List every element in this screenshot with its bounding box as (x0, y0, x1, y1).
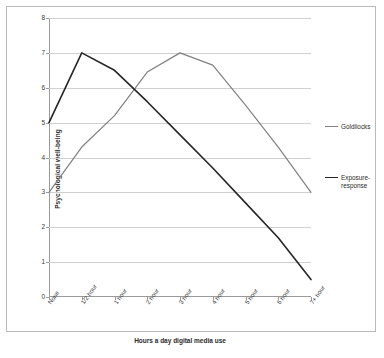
legend-label: Exposure-response (341, 174, 381, 191)
y-tick-label: 3 (41, 189, 45, 196)
legend-entry[interactable]: Exposure-response (325, 174, 381, 191)
x-axis-title: Hours a day digital media use (49, 337, 311, 344)
legend-swatch-icon (325, 177, 338, 178)
y-tick-label: 5 (41, 119, 45, 126)
y-tick-label: 0 (41, 294, 45, 301)
y-tick-label: 7 (41, 50, 45, 57)
y-tick-label: 6 (41, 85, 45, 92)
legend-label: Goldilocks (341, 123, 370, 132)
legend-entry[interactable]: Goldilocks (325, 123, 381, 132)
y-tick-label: 1 (41, 259, 45, 266)
legend-swatch-icon (325, 126, 338, 127)
y-tick-label: 4 (41, 154, 45, 161)
x-tick-label: 7+ hour (309, 285, 326, 306)
series-line (49, 53, 311, 280)
series-lines (49, 18, 311, 297)
y-tick-label: 2 (41, 224, 45, 231)
chart-frame: Psychological well-being 012345678 None1… (6, 6, 376, 332)
plot-area: 012345678 None1/2 hour1 hour2 hour3 hour… (49, 18, 311, 297)
series-line (49, 53, 311, 193)
y-tick-label: 8 (41, 15, 45, 22)
chart-legend: GoldilocksExposure-response (325, 123, 381, 233)
